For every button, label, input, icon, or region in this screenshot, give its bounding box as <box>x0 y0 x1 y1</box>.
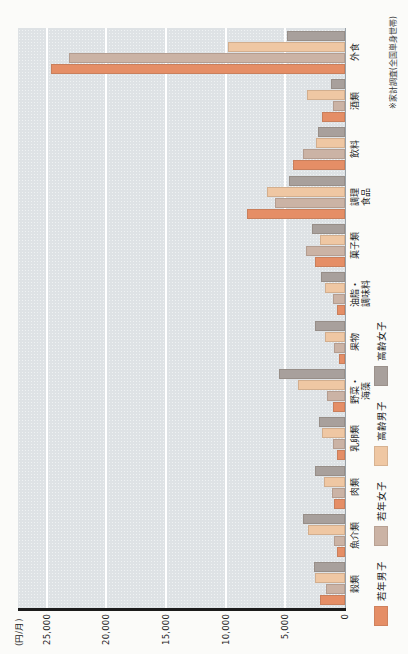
bar <box>315 321 345 331</box>
bar <box>333 294 345 304</box>
category-label: 果物 <box>350 333 361 351</box>
bar <box>334 536 345 546</box>
category-label: 外食 <box>350 43 361 61</box>
y-tick-label: 10,000 <box>220 614 230 645</box>
bar <box>247 209 345 219</box>
bar <box>314 562 345 572</box>
y-axis-line <box>18 608 346 611</box>
bar-group <box>18 76 345 124</box>
bar <box>327 391 345 401</box>
legend-item-young-female: 若年女子 <box>374 481 388 546</box>
category-label: 乳卵類 <box>350 425 361 452</box>
bar <box>325 332 345 342</box>
bar-group <box>18 560 345 608</box>
bar <box>337 547 345 557</box>
bar <box>303 514 345 524</box>
legend-item-old-female: 高齢女子 <box>374 321 388 386</box>
y-tick-label: 0 <box>340 614 350 620</box>
bar-group <box>18 173 345 221</box>
bar <box>324 477 345 487</box>
category-label: 菓子類 <box>350 232 361 259</box>
bar <box>293 160 346 170</box>
bar-group <box>18 366 345 414</box>
category-label: 穀類 <box>350 575 361 593</box>
bar-group <box>18 270 345 318</box>
bar <box>326 584 345 594</box>
bar <box>306 246 345 256</box>
axis-unit-label: (円/月) <box>12 619 24 647</box>
young-male-swatch <box>374 606 388 626</box>
category-label: 飲料 <box>350 140 361 158</box>
legend: 若年男子 若年女子 高齢男子 高齢女子 <box>374 321 388 626</box>
bar <box>332 488 345 498</box>
category-label: 魚介類 <box>350 522 361 549</box>
category-label: 肉類 <box>350 478 361 496</box>
rotated-chart-canvas: (円/月) 05,00010,00015,00020,00025,000 穀類魚… <box>0 0 408 654</box>
bar <box>322 428 345 438</box>
bar <box>321 272 345 282</box>
legend-label: 高齢男子 <box>374 401 388 441</box>
category-label: 野菜・ 海藻 <box>350 377 371 404</box>
bar <box>287 31 345 41</box>
old-male-swatch <box>374 446 388 466</box>
page: (円/月) 05,00010,00015,00020,00025,000 穀類魚… <box>0 0 408 654</box>
bar-groups <box>18 28 345 608</box>
category-label: 油脂・ 調味料 <box>350 280 371 307</box>
bar <box>228 42 345 52</box>
bar <box>318 127 345 137</box>
bar-group <box>18 463 345 511</box>
bar <box>267 187 345 197</box>
old-female-swatch <box>374 366 388 386</box>
bar-group <box>18 28 345 76</box>
legend-item-old-male: 高齢男子 <box>374 401 388 466</box>
category-label: 酒類 <box>350 92 361 110</box>
bar <box>333 101 345 111</box>
young-female-swatch <box>374 526 388 546</box>
legend-label: 若年男子 <box>374 561 388 601</box>
bar <box>337 305 345 315</box>
bar <box>334 499 345 509</box>
bar <box>51 64 345 74</box>
bar <box>333 439 345 449</box>
bar <box>315 466 345 476</box>
bar <box>320 235 345 245</box>
bar <box>331 79 345 89</box>
bar <box>307 90 345 100</box>
bar <box>279 369 345 379</box>
y-tick-label: 25,000 <box>41 614 51 645</box>
bar <box>325 283 345 293</box>
survey-note: ※家計調査(全国単身世帯) <box>387 16 398 109</box>
bar <box>316 138 345 148</box>
bar <box>334 343 345 353</box>
bar <box>319 417 345 427</box>
bar <box>308 525 345 535</box>
y-tick-label: 5,000 <box>280 614 290 639</box>
bar <box>303 149 345 159</box>
category-label: 調理 食品 <box>350 188 371 206</box>
bar-group <box>18 511 345 559</box>
bar <box>298 380 345 390</box>
bar-group <box>18 318 345 366</box>
bar <box>339 354 345 364</box>
y-tick-label: 15,000 <box>160 614 170 645</box>
bar-group <box>18 221 345 269</box>
legend-label: 高齢女子 <box>374 321 388 361</box>
bar <box>289 176 345 186</box>
bar <box>333 402 345 412</box>
bar-group <box>18 125 345 173</box>
bar <box>275 198 345 208</box>
legend-label: 若年女子 <box>374 481 388 521</box>
bar <box>312 224 345 234</box>
bar <box>337 450 345 460</box>
y-tick-label: 20,000 <box>101 614 111 645</box>
bar <box>315 257 345 267</box>
bar <box>322 112 345 122</box>
bar <box>69 53 345 63</box>
legend-item-young-male: 若年男子 <box>374 561 388 626</box>
bar <box>315 573 345 583</box>
bar <box>320 595 345 605</box>
bar-group <box>18 415 345 463</box>
